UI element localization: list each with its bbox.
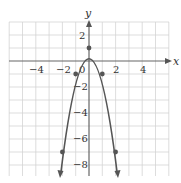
y-tick-label: −8: [73, 159, 88, 170]
point: [100, 72, 105, 77]
point: [73, 72, 78, 77]
parabola-chart: x y −4 −2 0 2 4 2 −2 −4 −6 −8: [0, 0, 181, 183]
x-tick-label: 4: [140, 64, 146, 75]
y-axis-label: y: [84, 7, 92, 20]
y-axis-arrow-icon: [86, 20, 92, 27]
x-tick-label: −4: [29, 64, 44, 75]
y-tick-label: −6: [73, 133, 88, 144]
point: [60, 150, 65, 155]
point: [87, 46, 92, 51]
x-tick-label: 2: [113, 64, 119, 75]
x-tick-label: −2: [56, 64, 71, 75]
x-axis-label: x: [173, 55, 180, 68]
y-tick-label: −4: [73, 107, 88, 118]
y-tick-label: 2: [79, 30, 85, 41]
point: [113, 150, 118, 155]
